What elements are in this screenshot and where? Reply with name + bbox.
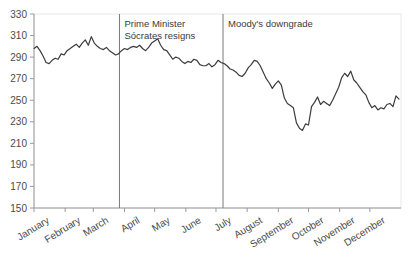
x-tick-label: July — [212, 214, 233, 233]
annotation-lines — [119, 14, 223, 208]
x-tick-label: April — [119, 214, 142, 234]
x-tick-label: May — [150, 214, 172, 233]
x-axis-ticks: JanuaryFebruaryMarchAprilMayJuneJulyAugu… — [15, 208, 387, 250]
annotation-label-line-1: Moody's downgrade — [228, 18, 313, 29]
y-tick-label: 210 — [10, 138, 27, 149]
y-tick-label: 190 — [10, 159, 27, 170]
y-tick-label: 230 — [10, 116, 27, 127]
series-line-yield-spread — [34, 37, 399, 131]
y-tick-label: 330 — [10, 9, 27, 20]
y-axis-ticks: 150170190210230250270290310330 — [10, 9, 34, 214]
y-tick-label: 310 — [10, 30, 27, 41]
y-tick-label: 170 — [10, 181, 27, 192]
x-tick-label: February — [42, 214, 82, 245]
chart-figure: 150170190210230250270290310330 JanuaryFe… — [0, 0, 418, 260]
annotation-label-line-2: Sócrates resigns — [124, 30, 195, 41]
y-tick-label: 270 — [10, 73, 27, 84]
x-tick-label: June — [179, 214, 204, 235]
line-chart-svg: 150170190210230250270290310330 JanuaryFe… — [0, 0, 418, 260]
annotation-labels: Prime MinisterSócrates resignsMoody's do… — [124, 18, 312, 41]
y-tick-label: 250 — [10, 95, 27, 106]
y-tick-label: 150 — [10, 203, 27, 214]
annotation-label-line-1: Prime Minister — [124, 18, 185, 29]
y-tick-label: 290 — [10, 52, 27, 63]
x-tick-label: March — [81, 214, 110, 238]
